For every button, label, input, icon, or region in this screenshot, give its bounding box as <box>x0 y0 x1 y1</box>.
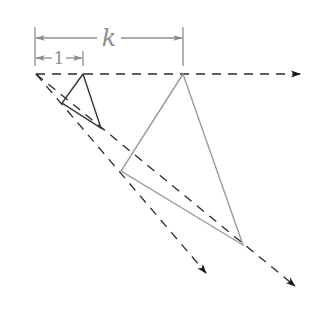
label-one: 1 <box>54 48 65 68</box>
ray-lower-right <box>36 74 295 286</box>
dimension-unit: 1 <box>36 48 83 68</box>
small-triangle <box>62 74 101 128</box>
ray-lower-left <box>36 74 206 273</box>
dashed-rays <box>36 74 300 286</box>
label-k: k <box>102 24 117 52</box>
large-triangle <box>121 74 243 245</box>
similar-triangles-diagram: k 1 <box>0 0 320 311</box>
